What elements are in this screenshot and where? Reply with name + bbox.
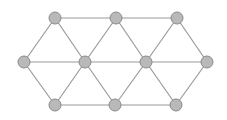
edge-B1-M2 bbox=[55, 62, 85, 105]
node-M3 bbox=[140, 56, 152, 68]
edges-group bbox=[24, 18, 207, 105]
node-M1 bbox=[18, 56, 30, 68]
edge-T1-M2 bbox=[55, 18, 85, 62]
node-T2 bbox=[110, 12, 122, 24]
edge-B1-M1 bbox=[24, 62, 55, 105]
node-B3 bbox=[170, 99, 182, 111]
edge-T2-M3 bbox=[116, 18, 146, 62]
node-B1 bbox=[49, 99, 61, 111]
edge-T1-M1 bbox=[24, 18, 55, 62]
node-M2 bbox=[79, 56, 91, 68]
node-T1 bbox=[49, 12, 61, 24]
lattice-graph-diagram bbox=[0, 0, 227, 120]
edge-T2-M2 bbox=[85, 18, 116, 62]
edge-T3-M3 bbox=[146, 18, 177, 62]
edge-B3-M3 bbox=[146, 62, 176, 105]
node-B2 bbox=[109, 99, 121, 111]
edge-B2-M2 bbox=[85, 62, 115, 105]
edge-T3-M4 bbox=[177, 18, 207, 62]
edge-B3-M4 bbox=[176, 62, 207, 105]
node-M4 bbox=[201, 56, 213, 68]
edge-B2-M3 bbox=[115, 62, 146, 105]
node-T3 bbox=[171, 12, 183, 24]
